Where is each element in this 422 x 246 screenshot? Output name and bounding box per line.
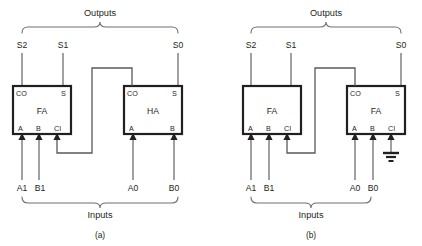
panel-b-outputs-brace xyxy=(251,22,401,33)
panel-b-input-a1-label: A1 xyxy=(246,183,257,193)
panel-a-ha-pin-b: B xyxy=(170,124,175,133)
panel-a-output-s2-label: S2 xyxy=(17,40,28,50)
panel-a-input-b0-label: B0 xyxy=(169,183,180,193)
figure-root: Outputs S2 S1 S0 CO S FA A B CI CO S HA … xyxy=(0,0,422,246)
panel-b-input-a0-label: A0 xyxy=(350,183,361,193)
panel-a-output-s0-label: S0 xyxy=(173,40,184,50)
panel-a-fa-pin-a: A xyxy=(18,124,23,133)
panel-b-fa-right-name: FA xyxy=(371,106,382,116)
panel-b-fa-right-pin-ci: CI xyxy=(388,124,395,133)
panel-a-input-a1-label: A1 xyxy=(17,183,28,193)
panel-a-fa-pin-s: S xyxy=(61,89,66,98)
panel-b-output-s0-label: S0 xyxy=(396,40,407,50)
panel-b-fa-left-pin-b: B xyxy=(266,124,271,133)
circuit-diagram-canvas: Outputs S2 S1 S0 CO S FA A B CI CO S HA … xyxy=(0,0,422,246)
panel-a-fa-pin-b: B xyxy=(36,124,41,133)
panel-b-caption: (b) xyxy=(306,230,316,240)
panel-a-fa-pin-ci: CI xyxy=(54,124,61,133)
panel-b-input-b1-label: B1 xyxy=(264,183,275,193)
panel-a-outputs-label: Outputs xyxy=(84,8,117,18)
panel-a-fa-name: FA xyxy=(37,106,48,116)
panel-a-ha-name: HA xyxy=(147,106,159,116)
panel-b-fa-right-pin-co: CO xyxy=(350,89,361,98)
panel-a-output-s1-label: S1 xyxy=(58,40,69,50)
panel-a-caption: (a) xyxy=(95,230,105,240)
panel-a-ha-pin-s: S xyxy=(172,89,177,98)
panel-a: Outputs S2 S1 S0 CO S FA A B CI CO S HA … xyxy=(13,8,183,240)
panel-b-fa-left-pin-ci: CI xyxy=(284,124,291,133)
panel-b-output-s2-label: S2 xyxy=(246,40,257,50)
panel-b-inputs-label: Inputs xyxy=(298,210,323,220)
panel-a-ha-pin-co: CO xyxy=(127,89,138,98)
panel-a-ha-pin-a: A xyxy=(129,124,134,133)
panel-a-fa-pin-co: CO xyxy=(16,89,27,98)
panel-a-inputs-brace xyxy=(22,197,178,208)
panel-b: Outputs S2 S1 S0 FA A B CI CO S FA A B C… xyxy=(243,8,406,240)
panel-a-input-a0-label: A0 xyxy=(128,183,139,193)
panel-a-inputs-label: Inputs xyxy=(87,210,112,220)
panel-a-input-b1-label: B1 xyxy=(35,183,46,193)
panel-b-fa-right-pin-b: B xyxy=(370,124,375,133)
panel-b-output-s1-label: S1 xyxy=(286,40,297,50)
panel-b-fa-right-pin-a: A xyxy=(352,124,357,133)
panel-b-fa-left-name: FA xyxy=(267,106,278,116)
ground-icon xyxy=(383,133,399,161)
panel-b-fa-left-pin-a: A xyxy=(248,124,253,133)
panel-b-fa-right-pin-s: S xyxy=(395,89,400,98)
panel-b-outputs-label: Outputs xyxy=(310,8,343,18)
panel-b-input-b0-label: B0 xyxy=(368,183,379,193)
panel-b-inputs-brace xyxy=(251,197,371,208)
panel-a-outputs-brace xyxy=(22,22,178,33)
